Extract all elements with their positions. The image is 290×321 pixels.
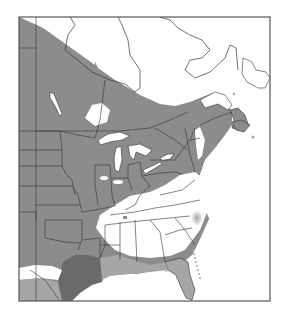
range-fade-carolina	[191, 210, 203, 226]
range-map-svg	[0, 0, 290, 321]
range-map	[0, 0, 290, 321]
outside-range-spot-indiana	[100, 176, 108, 180]
outside-range-spot-ohio	[113, 180, 123, 184]
isolated-range-spot	[123, 216, 127, 219]
